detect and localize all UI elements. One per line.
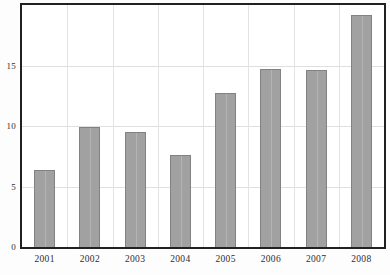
bar bbox=[306, 70, 327, 247]
bar bbox=[125, 132, 146, 247]
x-tick-label: 2002 bbox=[67, 255, 112, 265]
plot-inner bbox=[22, 5, 384, 247]
x-tick-label: 2006 bbox=[248, 255, 293, 265]
x-tick-label: 2005 bbox=[203, 255, 248, 265]
x-tick-label: 2003 bbox=[113, 255, 158, 265]
x-tick-label: 2004 bbox=[158, 255, 203, 265]
bar bbox=[260, 69, 281, 247]
bar bbox=[351, 15, 372, 247]
bar-chart: 151050 20012002200320042005200620072008 bbox=[0, 0, 390, 275]
x-tick-label: 2007 bbox=[294, 255, 339, 265]
y-tick-label: 5 bbox=[0, 183, 16, 192]
x-tick-label: 2008 bbox=[339, 255, 384, 265]
bar bbox=[215, 93, 236, 247]
y-tick-label: 0 bbox=[0, 243, 16, 252]
bar bbox=[34, 170, 55, 247]
bar bbox=[79, 127, 100, 247]
y-tick-label: 10 bbox=[0, 122, 16, 131]
plot-area bbox=[20, 3, 386, 249]
x-tick-label: 2001 bbox=[22, 255, 67, 265]
bars bbox=[22, 5, 384, 247]
bar bbox=[170, 155, 191, 247]
y-tick-label: 15 bbox=[0, 62, 16, 71]
